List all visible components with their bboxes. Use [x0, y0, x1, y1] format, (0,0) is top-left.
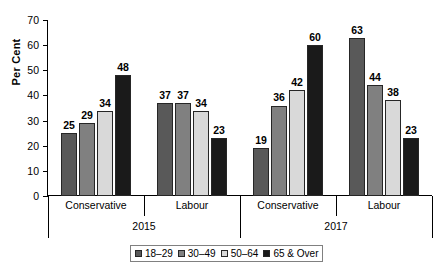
legend-item: 65 & Over	[263, 248, 318, 259]
year-separator	[432, 196, 433, 238]
category-separator	[336, 196, 337, 216]
legend-swatch-icon	[263, 250, 270, 257]
bar	[211, 138, 227, 196]
legend-label: 50–64	[231, 248, 259, 259]
y-axis-tick-label: 30	[8, 116, 39, 126]
bar	[367, 85, 383, 196]
bar	[61, 133, 77, 196]
y-axis-tick-label: 20	[8, 141, 39, 151]
bar	[79, 123, 95, 196]
legend-label: 30–49	[188, 248, 216, 259]
legend-label: 65 & Over	[273, 248, 318, 259]
bar-value-label: 38	[379, 87, 407, 98]
bar	[97, 111, 113, 196]
legend-item: 50–64	[221, 248, 259, 259]
y-axis-tick-label: 0	[8, 191, 39, 201]
bar	[193, 111, 209, 196]
bar-value-label: 48	[109, 62, 137, 73]
bar-chart: Per Cent 706050403020100 252934483737342…	[0, 0, 435, 269]
year-label: 2015	[48, 220, 240, 233]
year-separator	[48, 196, 49, 238]
category-label: Labour	[336, 199, 432, 212]
bar-value-label: 23	[205, 125, 233, 136]
chart-legend: 18–2930–4950–6465 & Over	[130, 245, 323, 262]
bar	[289, 90, 305, 196]
bar-value-label: 44	[361, 72, 389, 83]
category-separator	[144, 196, 145, 216]
legend-label: 18–29	[145, 248, 173, 259]
y-axis-tick-label: 60	[8, 40, 39, 50]
category-label: Conservative	[240, 199, 336, 212]
legend-swatch-icon	[178, 250, 185, 257]
legend-swatch-icon	[221, 250, 228, 257]
bar	[349, 38, 365, 196]
bar-value-label: 34	[187, 98, 215, 109]
y-axis-tick-label: 70	[8, 15, 39, 25]
bar	[115, 75, 131, 196]
y-axis-tick-label: 10	[8, 166, 39, 176]
legend-item: 30–49	[178, 248, 216, 259]
year-label: 2017	[240, 220, 432, 233]
bar	[307, 45, 323, 196]
category-label: Conservative	[48, 199, 144, 212]
bar	[403, 138, 419, 196]
bar	[253, 148, 269, 196]
legend-item: 18–29	[135, 248, 173, 259]
bar-value-label: 23	[397, 125, 425, 136]
y-axis-tick-label: 40	[8, 90, 39, 100]
year-separator	[240, 196, 241, 238]
bar	[385, 100, 401, 196]
bar	[175, 103, 191, 196]
bar-value-label: 60	[301, 32, 329, 43]
category-label: Labour	[144, 199, 240, 212]
bar-value-label: 63	[343, 25, 371, 36]
legend-swatch-icon	[135, 250, 142, 257]
bar	[157, 103, 173, 196]
bar	[271, 106, 287, 197]
plot-area: 25293448373734231936426063443823	[48, 20, 432, 196]
y-axis-tick-label: 50	[8, 65, 39, 75]
